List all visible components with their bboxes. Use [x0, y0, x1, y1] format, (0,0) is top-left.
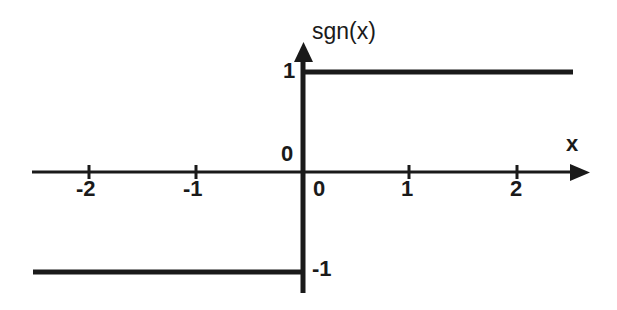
- y-tick-label-zero: 0: [281, 143, 293, 165]
- x-tick-label-negative-two: -2: [76, 178, 96, 200]
- x-tick-label-two: 2: [510, 178, 522, 200]
- x-tick-label-one: 1: [401, 178, 413, 200]
- x-axis-name-label: x: [566, 133, 578, 155]
- x-tick-label-zero: 0: [313, 178, 325, 200]
- y-tick-label-negative-one: -1: [312, 258, 332, 280]
- arrow-right-icon: [570, 164, 590, 181]
- signum-function-figure: sgn(x) 1 0 -1 0 1 2 -1 -2 x: [0, 0, 617, 310]
- function-name-label: sgn(x): [312, 20, 376, 43]
- y-tick-label-one: 1: [283, 60, 295, 82]
- arrow-up-icon: [294, 42, 313, 62]
- x-tick-label-negative-one: -1: [183, 178, 203, 200]
- plot-canvas: [0, 0, 617, 310]
